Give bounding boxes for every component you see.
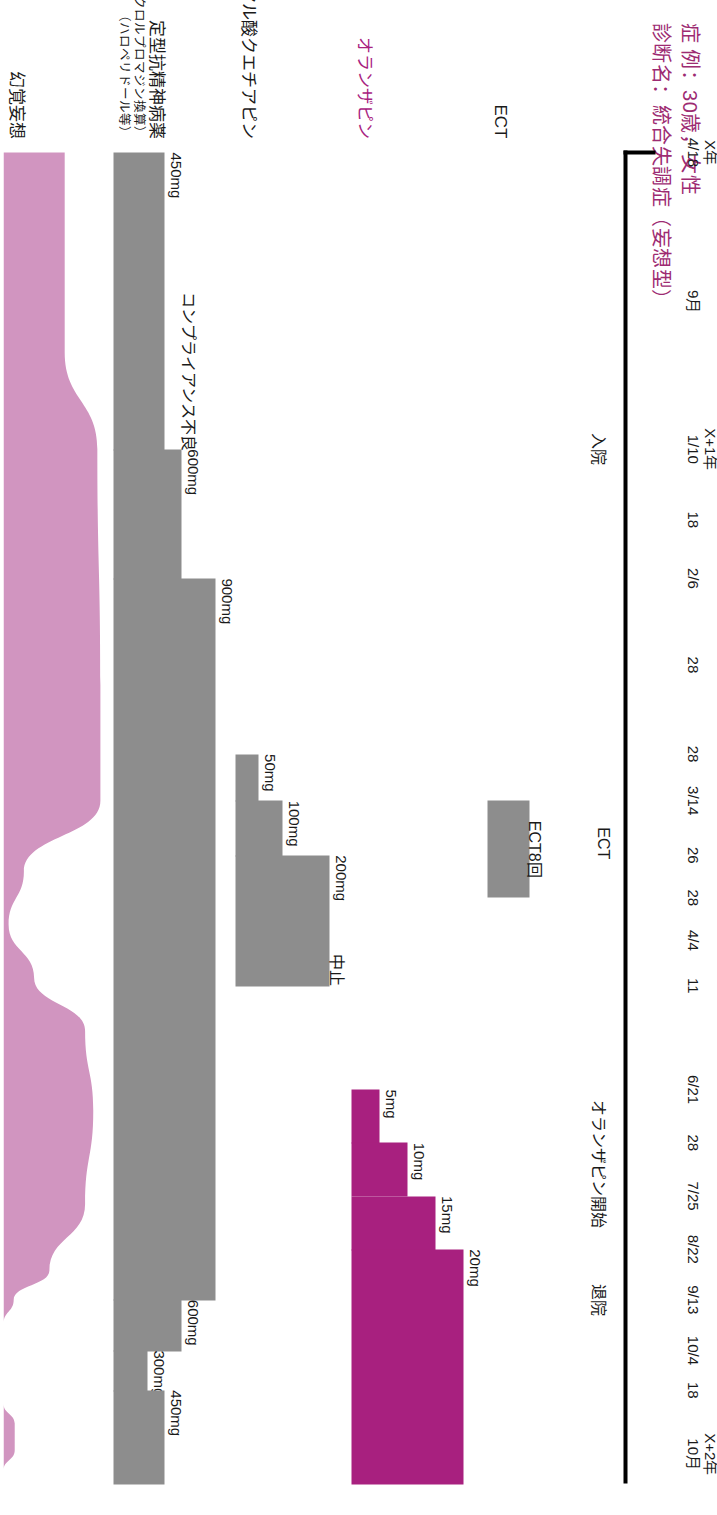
typical-dose-label: 600mg (184, 1299, 201, 1345)
olanzapine-segment (351, 1142, 407, 1196)
case-header-line2: 診断名：統合失調症（妄想型） (645, 22, 674, 309)
axis-tick-date: 4/4 (683, 930, 700, 951)
olanzapine-segment (351, 1249, 463, 1484)
axis-end-cap (623, 150, 655, 154)
band-typical: 450mg600mg900mg600mg300mg450mgコンプライアンス不良 (113, 0, 231, 1515)
clinical-course-chart: 症 例：30歳，女性 診断名：統合失調症（妄想型） X年4/189月X+1年1/… (0, 0, 717, 1515)
timeline-axis (623, 150, 627, 1483)
typical-segment (113, 578, 215, 1300)
axis-tick-date: 28 (683, 745, 700, 762)
axis-tick-10: 4/4 (683, 930, 700, 951)
axis-tick-date: 11 (683, 977, 700, 993)
band-olanzapine: 5mg10mg15mg20mg (351, 0, 479, 1515)
axis-tick-5: 28 (683, 656, 700, 673)
axis-tick-year: X+2年 (700, 1433, 717, 1475)
axis-event-1: ECT (593, 827, 611, 859)
typical-annotation: コンプライアンス不良 (177, 292, 201, 451)
olanzapine-dose-label: 20mg (466, 1249, 483, 1287)
typical-dose-label: 300mg (150, 1350, 167, 1396)
axis-tick-6: 28 (683, 745, 700, 762)
band-symptoms (3, 0, 111, 1515)
typical-dose-label: 900mg (218, 578, 235, 624)
axis-tick-7: 3/14 (683, 786, 700, 815)
axis-tick-9: 28 (683, 889, 700, 906)
quetiapine-dose-label: 50mg (262, 754, 279, 792)
typical-segment (113, 1390, 164, 1484)
axis-tick-date: 10月 (683, 1433, 700, 1475)
axis-tick-2: X+1年1/10 (683, 428, 717, 470)
typical-dose-label: 450mg (167, 152, 184, 198)
axis-tick-14: 7/25 (683, 1181, 700, 1210)
axis-tick-0: X年4/18 (683, 137, 717, 166)
axis-tick-date: 7/25 (683, 1181, 700, 1210)
axis-tick-date: 9月 (683, 289, 700, 312)
figure-page: 症 例：30歳，女性 診断名：統合失調症（妄想型） X年4/189月X+1年1/… (0, 0, 717, 1515)
olanzapine-dose-label: 10mg (410, 1142, 427, 1180)
axis-tick-date: 8/22 (683, 1234, 700, 1263)
typical-dose-label: 450mg (167, 1390, 184, 1436)
axis-event-0: 入院 (587, 433, 611, 465)
ect-count-annotation: ECT8回 (523, 820, 547, 877)
axis-tick-date: 28 (683, 656, 700, 673)
typical-segment (113, 152, 164, 450)
axis-tick-year: X+1年 (700, 428, 717, 470)
symptom-area-path (3, 152, 100, 1470)
axis-tick-16: 9/13 (683, 1285, 700, 1314)
olanzapine-dose-label: 5mg (382, 1089, 399, 1118)
axis-tick-11: 11 (683, 977, 700, 993)
typical-dose-label: 600mg (184, 449, 201, 495)
axis-tick-13: 28 (683, 1134, 700, 1151)
olanzapine-segment (351, 1196, 435, 1250)
axis-tick-18: 18 (683, 1381, 700, 1398)
axis-tick-date: 26 (683, 846, 700, 863)
symptom-area-chart (3, 0, 111, 1515)
quetiapine-dose-label: 200mg (332, 855, 349, 901)
quetiapine-segment (235, 855, 329, 986)
axis-event-2: オランザピン開始 (587, 1100, 611, 1228)
typical-segment (113, 449, 181, 579)
axis-event-3: 退院 (587, 1283, 611, 1315)
axis-tick-4: 2/6 (683, 567, 700, 588)
axis-tick-date: 4/18 (683, 137, 700, 166)
typical-segment (113, 1299, 181, 1351)
axis-tick-date: 6/21 (683, 1074, 700, 1103)
axis-tick-year: X年 (700, 137, 717, 166)
axis-tick-19: X+2年10月 (683, 1433, 717, 1475)
axis-tick-date: 2/6 (683, 567, 700, 588)
axis-tick-17: 10/4 (683, 1335, 700, 1364)
axis-tick-date: 9/13 (683, 1285, 700, 1314)
olanzapine-dose-label: 15mg (438, 1196, 455, 1234)
axis-tick-date: 28 (683, 1134, 700, 1151)
axis-tick-8: 26 (683, 846, 700, 863)
band-quetiapine: 50mg100mg200mg中止 (235, 0, 345, 1515)
axis-tick-date: 18 (683, 1381, 700, 1398)
typical-segment (113, 1350, 147, 1391)
quetiapine-segment (235, 754, 259, 802)
quetiapine-dose-label: 100mg (285, 800, 302, 846)
axis-tick-3: 18 (683, 511, 700, 528)
axis-tick-date: 18 (683, 511, 700, 528)
quetiapine-annotation: 中止 (325, 953, 349, 985)
axis-tick-1: 9月 (683, 289, 700, 312)
axis-tick-date: 10/4 (683, 1335, 700, 1364)
axis-tick-date: 1/10 (683, 428, 700, 470)
axis-tick-date: 3/14 (683, 786, 700, 815)
olanzapine-segment (351, 1089, 379, 1143)
band-ect: ECT8回 (487, 0, 557, 1515)
axis-tick-15: 8/22 (683, 1234, 700, 1263)
axis-tick-12: 6/21 (683, 1074, 700, 1103)
quetiapine-segment (235, 800, 282, 856)
axis-tick-date: 28 (683, 889, 700, 906)
